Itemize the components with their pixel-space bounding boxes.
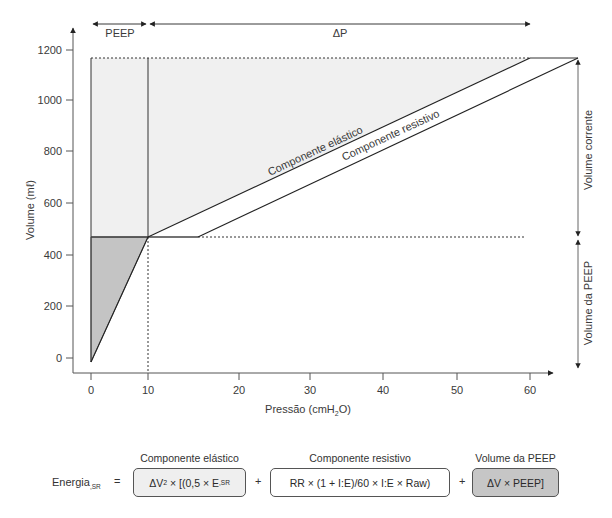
formula-lhs: Energia,SR	[52, 476, 101, 490]
elastic-term-box: ΔV2 × [(0,5 × E,SR	[133, 468, 246, 497]
peep-term-box: ΔV × PEEP]	[472, 468, 559, 497]
elastic-heading: Componente elástico	[133, 452, 246, 464]
equals-sign: =	[114, 475, 120, 487]
energy-formula: Energia,SR = Componente elástico ΔV2 × […	[0, 0, 612, 518]
plus-sign-1: +	[255, 475, 261, 487]
resistive-heading: Componente resistivo	[270, 452, 450, 464]
resistive-term-box: RR × (1 + I:E)/60 × I:E × Raw)	[270, 468, 450, 497]
peep-heading: Volume da PEEP	[472, 452, 559, 464]
plus-sign-2: +	[459, 475, 465, 487]
